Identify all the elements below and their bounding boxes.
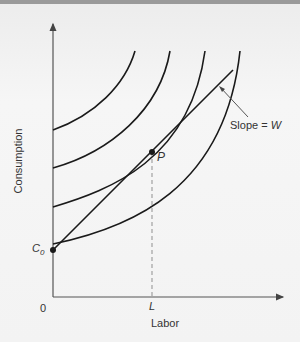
origin-label: 0: [40, 302, 46, 314]
slope-text: Slope =: [230, 119, 271, 131]
c0-label-base: C: [32, 242, 40, 254]
p-point: [149, 149, 155, 155]
c0-label-subscript: 0: [40, 248, 44, 257]
indifference-curve-1: [53, 51, 135, 130]
slope-leader-line: [220, 87, 248, 117]
labor-consumption-diagram: [0, 0, 300, 342]
y-axis-label: Consumption: [12, 121, 24, 201]
x-axis-label: Labor: [151, 317, 179, 329]
c0-point: [50, 247, 56, 253]
indifference-curve-3: [53, 51, 205, 207]
c0-label: C0: [32, 242, 44, 257]
diagram-frame: Consumption 0 C0 P L Labor Slope = W: [0, 0, 300, 342]
p-label: P: [157, 150, 165, 164]
l-label: L: [149, 300, 155, 312]
slope-variable: W: [271, 119, 281, 131]
budget-line: [53, 70, 233, 250]
indifference-curve-4: [53, 51, 240, 244]
slope-annotation: Slope = W: [230, 119, 281, 131]
